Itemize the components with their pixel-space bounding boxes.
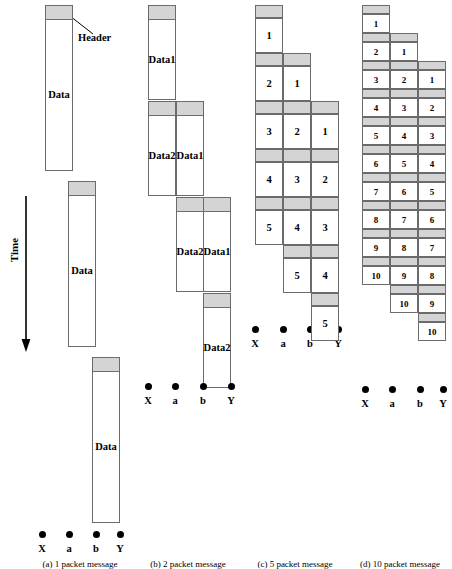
packet-header — [177, 198, 203, 212]
panel-caption-c: (c) 5 packet message — [235, 559, 355, 569]
node-label-b: b — [410, 398, 430, 409]
packet-header — [418, 173, 446, 182]
packet-number-cell: 2 — [390, 70, 418, 89]
packet-body-line2: 2 — [170, 150, 175, 161]
packet-number-cell: 10 — [418, 322, 446, 341]
packet-number-cell: 9 — [418, 294, 446, 313]
node-label-b: b — [86, 543, 106, 554]
packet-body-line1: Data — [204, 246, 226, 257]
packet-header — [418, 61, 446, 70]
time-arrow-icon — [18, 196, 38, 352]
packet-header — [362, 173, 390, 182]
packet-number-cell: 2 — [283, 114, 311, 149]
node-dot-x — [39, 531, 46, 538]
packet-header — [390, 61, 418, 70]
packet-body-label: Data — [93, 372, 119, 522]
node-label-y: Y — [221, 395, 241, 406]
packet-number-cell: 5 — [362, 126, 390, 145]
packet-header — [418, 117, 446, 126]
packet-number-cell: 5 — [390, 154, 418, 173]
packet-header — [311, 293, 339, 306]
node-dot-x — [145, 383, 152, 390]
packet-block: Data — [68, 181, 96, 347]
node-label-a: a — [59, 543, 79, 554]
packet-header — [283, 149, 311, 162]
packet-header — [390, 173, 418, 182]
packet-body-label: Data 1 — [177, 116, 203, 195]
packet-number-cell: 3 — [255, 114, 283, 149]
packet-body-label: Data — [69, 196, 95, 346]
packet-header — [362, 61, 390, 70]
packet-body-label: Data 1 — [149, 20, 175, 99]
node-label-y: Y — [110, 543, 130, 554]
packet-header — [390, 89, 418, 98]
node-label-a: a — [273, 338, 293, 349]
packet-number-cell: 1 — [311, 114, 339, 149]
packet-header — [149, 6, 175, 20]
node-label-b: b — [193, 395, 213, 406]
packet-body-line2: 1 — [170, 54, 175, 65]
node-dot-y — [117, 531, 124, 538]
packet-number-cell: 7 — [390, 210, 418, 229]
packet-header — [362, 201, 390, 210]
packet-header — [311, 101, 339, 114]
panel-caption-b: (b) 2 packet message — [128, 559, 248, 569]
packet-body-line2: 1 — [225, 246, 230, 257]
packet-header — [390, 229, 418, 238]
packet-header — [418, 313, 446, 322]
packet-header — [418, 201, 446, 210]
packet-number-cell: 3 — [283, 162, 311, 197]
packet-header — [390, 117, 418, 126]
packet-number-cell: 4 — [283, 210, 311, 245]
packet-number-cell: 2 — [255, 66, 283, 101]
packet-header — [93, 358, 119, 372]
packet-body-label: Data 1 — [204, 212, 230, 291]
node-dot-a — [66, 531, 73, 538]
packet-body-line2: 2 — [225, 342, 230, 353]
packet-block: Data 2 — [203, 293, 231, 388]
packet-body-line1: Data — [149, 54, 171, 65]
packet-header — [418, 257, 446, 266]
packet-body-line2: 1 — [198, 150, 203, 161]
packet-number-cell: 7 — [418, 238, 446, 257]
panel-caption-a: (a) 1 packet message — [20, 559, 140, 569]
packet-number-cell: 4 — [311, 258, 339, 293]
packet-number-cell: 5 — [418, 182, 446, 201]
packet-block: Data 2 — [176, 197, 204, 292]
packet-header — [390, 33, 418, 42]
packet-header — [311, 149, 339, 162]
packet-number-cell: 3 — [418, 126, 446, 145]
packet-header — [390, 257, 418, 266]
packet-header — [204, 294, 230, 308]
packet-number-cell: 5 — [255, 210, 283, 245]
packet-number-cell: 9 — [362, 238, 390, 257]
packet-body-line1: Data — [177, 246, 199, 257]
packet-header — [177, 102, 203, 116]
packet-block: Data — [45, 5, 73, 171]
node-dot-b — [93, 531, 100, 538]
packet-header — [69, 182, 95, 196]
node-dot-a — [172, 383, 179, 390]
packet-number-cell: 5 — [283, 258, 311, 293]
packet-number-cell: 1 — [418, 70, 446, 89]
packet-header — [390, 201, 418, 210]
node-label-a: a — [382, 398, 402, 409]
packet-number-cell: 6 — [418, 210, 446, 229]
packet-header — [204, 198, 230, 212]
node-label-a: a — [165, 395, 185, 406]
node-dot-y — [228, 383, 235, 390]
packet-number-cell: 8 — [418, 266, 446, 285]
packet-block: Data — [92, 357, 120, 523]
packet-body-label: Data 2 — [177, 212, 203, 291]
packet-number-cell: 1 — [362, 14, 390, 33]
packet-number-cell: 6 — [362, 154, 390, 173]
packet-header — [362, 33, 390, 42]
node-label-x: X — [32, 543, 52, 554]
packet-header — [283, 245, 311, 258]
packet-number-cell: 4 — [390, 126, 418, 145]
packet-header — [255, 53, 283, 66]
packet-header — [362, 145, 390, 154]
node-label-x: X — [245, 338, 265, 349]
packet-header — [418, 89, 446, 98]
